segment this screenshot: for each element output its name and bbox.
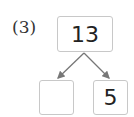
part-box-empty[interactable] [39, 80, 74, 115]
part-box: 5 [93, 80, 128, 115]
arrow-right-icon [84, 53, 109, 78]
arrow-left-icon [58, 53, 84, 78]
